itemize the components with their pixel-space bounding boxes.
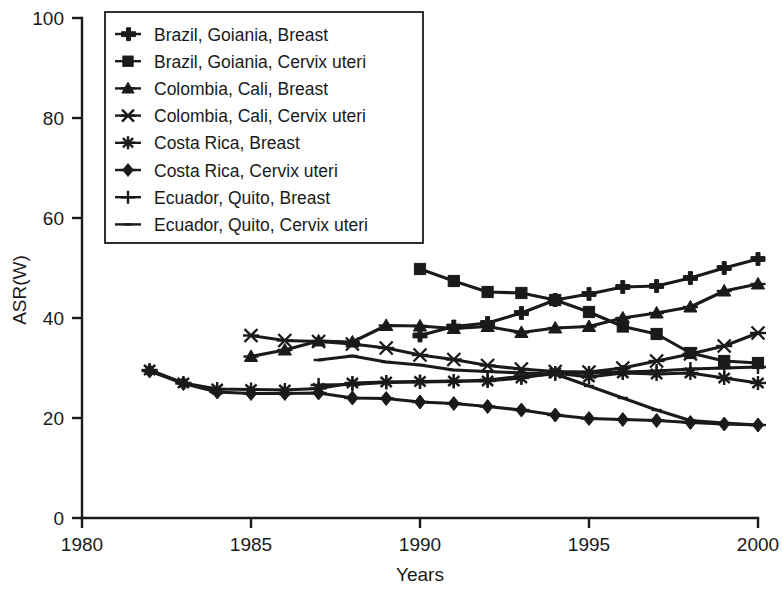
legend: Brazil, Goiania, BreastBrazil, Goiania, … (105, 12, 423, 243)
x-tick-label: 1985 (230, 534, 272, 555)
y-tick-label: 80 (43, 108, 64, 129)
legend-label: Brazil, Goiania, Cervix uteri (154, 52, 366, 72)
legend-label: Brazil, Goiania, Breast (154, 25, 328, 45)
square-marker (448, 275, 459, 286)
square-marker (123, 56, 133, 66)
y-axis-title: ASR(W) (9, 255, 30, 325)
square-marker (482, 286, 493, 297)
legend-box (105, 12, 423, 243)
y-tick-label: 40 (43, 308, 64, 329)
x-axis-title: Years (396, 564, 444, 585)
y-tick-label: 60 (43, 208, 64, 229)
y-tick-label: 100 (32, 8, 64, 29)
square-marker (550, 294, 561, 305)
x-tick-label: 1980 (61, 534, 103, 555)
legend-label: Colombia, Cali, Breast (154, 79, 328, 99)
x-tick-label: 1995 (568, 534, 610, 555)
legend-label: Costa Rica, Breast (154, 133, 300, 153)
legend-label: Colombia, Cali, Cervix uteri (154, 106, 366, 126)
legend-label: Ecuador, Quito, Cervix uteri (154, 215, 368, 235)
legend-label: Costa Rica, Cervix uteri (154, 161, 338, 181)
line-chart: 020406080100 19801985199019952000 ASR(W)… (0, 0, 782, 594)
y-tick-label: 20 (43, 408, 64, 429)
chart-container: 020406080100 19801985199019952000 ASR(W)… (0, 0, 782, 594)
square-marker (651, 328, 662, 339)
square-marker (414, 263, 425, 274)
y-tick-label: 0 (53, 508, 64, 529)
square-marker (583, 306, 594, 317)
legend-label: Ecuador, Quito, Breast (154, 188, 330, 208)
x-tick-label: 1990 (399, 534, 441, 555)
x-tick-label: 2000 (737, 534, 779, 555)
square-marker (516, 287, 527, 298)
